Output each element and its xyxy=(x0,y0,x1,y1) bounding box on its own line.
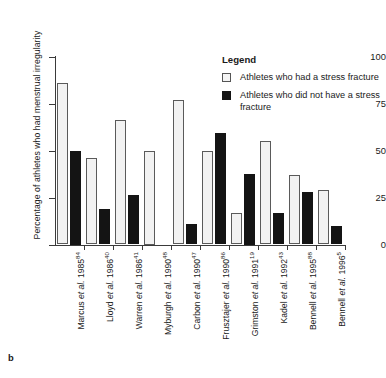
x-axis-tick xyxy=(113,245,114,250)
bar-no-stress-fracture xyxy=(273,213,284,244)
x-axis-tick xyxy=(316,245,317,250)
bar-stress-fracture xyxy=(173,100,184,245)
bar-stress-fracture xyxy=(144,151,155,245)
bar-stress-fracture xyxy=(260,141,271,244)
legend-item-stress-fracture: Athletes who had a stress fracture xyxy=(222,72,382,83)
x-axis-category-label: Marcus et al. 198584 xyxy=(74,252,86,362)
bar-no-stress-fracture xyxy=(186,224,197,245)
x-axis-tick xyxy=(84,245,85,250)
bar-stress-fracture xyxy=(202,151,213,244)
legend-swatch-light-dotted-icon xyxy=(222,73,231,82)
x-axis-category-label: Bennell et al. 199588 xyxy=(306,252,318,362)
bar-no-stress-fracture xyxy=(99,209,110,245)
x-axis-tick xyxy=(287,245,288,250)
x-axis-tick xyxy=(229,245,230,250)
x-axis-tick xyxy=(171,245,172,250)
x-axis-category-label: Carbon et al. 199047 xyxy=(190,252,202,362)
bar-no-stress-fracture xyxy=(215,133,226,245)
legend-item-label: Athletes who had a stress fracture xyxy=(240,72,379,83)
legend: Legend Athletes who had a stress fractur… xyxy=(222,54,382,120)
bar-stress-fracture xyxy=(86,158,97,244)
legend-swatch-solid-black-icon xyxy=(222,91,231,100)
x-axis-category-label: Lloyd et al. 198640 xyxy=(103,252,115,362)
bar-no-stress-fracture xyxy=(244,174,255,245)
x-axis-tick xyxy=(200,245,201,250)
bar-stress-fracture xyxy=(289,175,300,245)
legend-item-label: Athletes who did not have a stress fract… xyxy=(240,90,382,113)
panel-letter: b xyxy=(8,352,14,363)
legend-title: Legend xyxy=(222,54,382,65)
bar-stress-fracture xyxy=(57,83,68,245)
x-axis-category-label: Frusztajer et al. 199086 xyxy=(219,252,231,362)
figure-panel-b: Percentage of athletes who had menstrual… xyxy=(0,0,386,378)
bar-stress-fracture xyxy=(115,120,126,244)
legend-item-no-stress-fracture: Athletes who did not have a stress fract… xyxy=(222,90,382,113)
x-axis-category-label: Warren et al. 198641 xyxy=(132,252,144,362)
x-axis-category-label: Kadel et al. 199243 xyxy=(277,252,289,362)
bar-stress-fracture xyxy=(318,190,329,245)
x-axis-tick xyxy=(258,245,259,250)
x-axis-category-label: Grimston et al. 199119 xyxy=(248,252,260,362)
bar-no-stress-fracture xyxy=(302,192,313,245)
bar-no-stress-fracture xyxy=(128,195,139,245)
bar-no-stress-fracture xyxy=(331,226,342,245)
x-axis-category-label: Myburgh et al. 199048 xyxy=(161,252,173,362)
x-axis-tick xyxy=(142,245,143,250)
bar-no-stress-fracture xyxy=(70,151,81,245)
bar-stress-fracture xyxy=(231,213,242,245)
x-axis-tick xyxy=(345,245,346,250)
x-axis-category-label: Bennell et al. 19965 xyxy=(335,252,347,362)
